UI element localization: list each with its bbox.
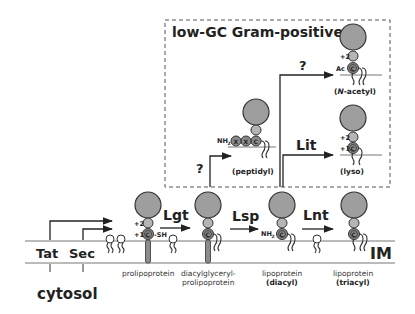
- svg-text:-SH: -SH: [154, 231, 167, 239]
- stage-label-prolipoprotein: prolipoprotein: [122, 269, 175, 278]
- stage-label-triacyl-1: lipoprotein: [333, 269, 373, 278]
- sec-translocase: Sec: [69, 229, 112, 272]
- membrane-label: IM: [370, 244, 392, 263]
- sec-label: Sec: [69, 246, 95, 261]
- svg-text:C: C: [206, 231, 211, 238]
- svg-text:+2: +2: [340, 53, 350, 61]
- peptidyl-arrow: [210, 156, 231, 187]
- phospholipid-icon: [106, 235, 125, 253]
- peptidyl-enzyme-unknown: ?: [196, 161, 204, 176]
- svg-text:+2: +2: [340, 134, 350, 142]
- gram-positive-title: low-GC Gram-positive: [172, 24, 343, 40]
- svg-text:C: C: [280, 231, 285, 238]
- lyso-label: (lyso): [340, 167, 364, 176]
- tat-arrow: [50, 221, 112, 240]
- lit-arrow: [283, 155, 333, 187]
- svg-text:X: X: [234, 138, 239, 145]
- stage-label-triacyl-2: (triacyl): [336, 278, 370, 287]
- lipoprotein-n-acetyl: C +2 Ac: [336, 24, 382, 85]
- nacetyl-label: (N-acetyl): [334, 87, 376, 96]
- stage-label-diacylglyceryl-2: prolipoprotein: [182, 278, 235, 287]
- svg-text:2: 2: [228, 141, 231, 146]
- lit-label: Lit: [296, 137, 317, 153]
- lsp-label: Lsp: [232, 208, 259, 224]
- cytosol-label: cytosol: [37, 285, 98, 303]
- tat-label: Tat: [36, 246, 58, 261]
- svg-text:+2: +2: [134, 220, 144, 228]
- svg-text:NH: NH: [217, 137, 228, 145]
- svg-text:+1: +1: [134, 231, 144, 239]
- stage-label-diacylglyceryl-1: diacylglyceryl-: [181, 269, 236, 278]
- nacetyl-enzyme-unknown: ?: [299, 58, 307, 73]
- svg-text:NH: NH: [261, 230, 272, 238]
- svg-text:+1: +1: [340, 145, 350, 153]
- svg-text:C: C: [146, 231, 151, 238]
- phospholipid-icon: [313, 235, 321, 253]
- lipoprotein-triacyl: C: [341, 192, 367, 251]
- svg-text:2: 2: [272, 234, 275, 239]
- svg-text:C: C: [351, 65, 356, 72]
- peptidyl-label: (peptidyl): [232, 167, 274, 176]
- stage-label-diacyl-2: (diacyl): [266, 278, 298, 287]
- lgt-label: Lgt: [163, 207, 189, 223]
- lnt-label: Lnt: [303, 207, 329, 223]
- lipoprotein-peptidyl: C X X NH 2: [217, 99, 276, 158]
- lipoprotein-lyso: C +2 +1: [340, 105, 382, 165]
- svg-text:C: C: [254, 138, 259, 145]
- nacetyl-arrow: [280, 75, 333, 187]
- svg-text:X: X: [244, 138, 249, 145]
- lipoprotein-diacyl: C NH 2: [261, 192, 295, 251]
- svg-text:C: C: [351, 145, 356, 152]
- diacylglyceryl-prolipoprotein: C: [195, 192, 221, 263]
- lipoprotein-maturation-diagram: low-GC Gram-positive IM cytosol Tat Sec …: [0, 0, 415, 314]
- phospholipid-icon: [169, 235, 177, 253]
- stage-label-diacyl-1: lipoprotein: [262, 269, 302, 278]
- svg-text:C: C: [352, 231, 357, 238]
- svg-text:Ac: Ac: [336, 65, 345, 73]
